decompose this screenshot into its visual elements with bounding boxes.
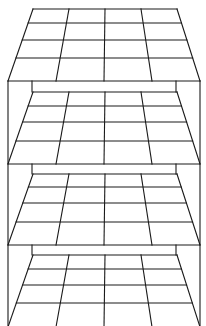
grid-column-line xyxy=(177,92,200,164)
stacked-grid-diagram xyxy=(0,0,206,326)
grid-planes xyxy=(8,9,200,326)
grid-column-line xyxy=(141,255,152,326)
grid-column-line xyxy=(56,9,69,81)
grid-column-line xyxy=(8,9,33,81)
grid-column-line xyxy=(56,92,69,164)
grid-column-line xyxy=(177,174,200,245)
grid-column-line xyxy=(141,92,152,164)
grid-column-line xyxy=(141,9,152,81)
plane-3 xyxy=(8,174,200,245)
grid-column-line xyxy=(104,174,105,245)
grid-column-line xyxy=(56,174,69,245)
plane-1 xyxy=(8,9,200,81)
grid-column-line xyxy=(56,255,69,326)
grid-column-line xyxy=(177,9,200,81)
grid-column-line xyxy=(104,255,105,326)
plane-4 xyxy=(8,255,200,326)
grid-column-line xyxy=(104,9,105,81)
grid-column-line xyxy=(8,174,33,245)
grid-column-line xyxy=(104,92,105,164)
grid-column-line xyxy=(8,92,33,164)
grid-column-line xyxy=(8,255,33,326)
plane-2 xyxy=(8,92,200,164)
grid-column-line xyxy=(177,255,200,326)
grid-column-line xyxy=(141,174,152,245)
